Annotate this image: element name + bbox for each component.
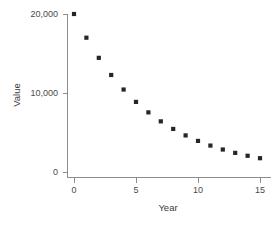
x-tick-label: 5 <box>133 185 138 195</box>
x-axis-title: Year <box>158 202 177 213</box>
x-tick-label: 0 <box>71 185 76 195</box>
y-tick-group: 010,00020,000 <box>30 9 67 177</box>
data-point <box>184 133 188 137</box>
data-point <box>233 151 237 155</box>
data-point <box>246 154 250 158</box>
data-point <box>159 119 163 123</box>
y-axis-title: Value <box>11 83 22 107</box>
data-point <box>134 100 138 104</box>
data-point-group <box>72 12 262 160</box>
y-tick-label: 0 <box>53 167 58 177</box>
data-point <box>97 56 101 60</box>
data-point <box>196 139 200 143</box>
x-tick-label: 10 <box>193 185 203 195</box>
data-point <box>258 156 262 160</box>
data-point <box>122 87 126 91</box>
data-point <box>84 36 88 40</box>
data-point <box>109 73 113 77</box>
chart-container: 010,00020,000 051015 Year Value <box>0 0 277 225</box>
y-tick-label: 10,000 <box>30 88 58 98</box>
x-tick-group: 051015 <box>71 178 265 196</box>
data-point <box>72 12 76 16</box>
x-tick-label: 15 <box>255 185 265 195</box>
y-tick-label: 20,000 <box>30 9 58 19</box>
scatter-plot: 010,00020,000 051015 Year Value <box>0 0 277 225</box>
data-point <box>171 127 175 131</box>
data-point <box>146 110 150 114</box>
data-point <box>221 147 225 151</box>
data-point <box>208 143 212 147</box>
